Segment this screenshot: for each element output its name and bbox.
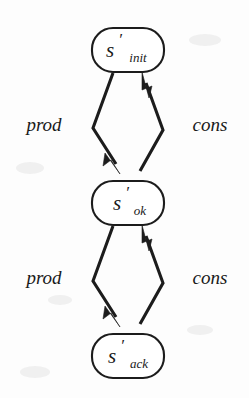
node-s-ok-prime: ′	[125, 183, 129, 202]
node-s-ack-outline	[92, 334, 164, 378]
node-s-ack-prime: ′	[120, 336, 124, 355]
node-s-ok-base: s	[113, 191, 121, 215]
node-s-init-base: s	[106, 38, 114, 62]
state-diagram: s ′ init s ′ ok s ′ ack prod cons prod c…	[0, 0, 249, 398]
edge-prod-ok-ack	[93, 226, 120, 327]
node-s-init[interactable]: s ′ init	[92, 28, 164, 72]
node-s-ack[interactable]: s ′ ack	[92, 334, 164, 378]
edge-label-cons-upper: cons	[193, 114, 228, 135]
edge-cons-ack-ok-line	[140, 236, 163, 324]
edge-prod-init-ok-line	[93, 73, 116, 164]
edge-prod-init-ok	[93, 73, 120, 174]
edge-cons-ok-init-line	[140, 83, 163, 171]
edge-label-prod-lower: prod	[24, 267, 62, 288]
edge-prod-ok-ack-line	[93, 226, 116, 317]
edge-label-prod-upper: prod	[24, 114, 62, 135]
node-s-ok-subscript: ok	[134, 203, 147, 218]
diagram-canvas: s ′ init s ′ ok s ′ ack prod cons prod c…	[0, 0, 249, 398]
edge-cons-ack-ok	[140, 225, 163, 324]
node-s-init-subscript: init	[129, 50, 147, 65]
node-s-init-prime: ′	[118, 30, 122, 49]
edge-label-cons-lower: cons	[193, 267, 228, 288]
node-s-ok[interactable]: s ′ ok	[92, 181, 164, 225]
node-s-ack-base: s	[108, 344, 116, 368]
node-s-init-outline	[92, 28, 164, 72]
edge-cons-ok-init	[140, 72, 163, 171]
node-s-ack-subscript: ack	[130, 356, 148, 371]
